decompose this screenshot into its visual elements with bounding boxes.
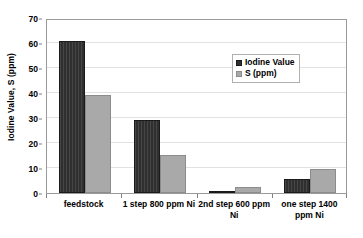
bar-group	[47, 20, 122, 193]
x-axis-category-labels: feedstock1 step 800 ppm Ni2nd step 600 p…	[46, 199, 347, 237]
y-axis-tick-mark	[39, 44, 42, 45]
bar[interactable]	[160, 155, 186, 193]
legend-swatch-icon	[236, 71, 242, 77]
bar[interactable]	[134, 120, 160, 193]
chart-legend: Iodine ValueS (ppm)	[232, 54, 300, 83]
bar[interactable]	[310, 169, 336, 193]
y-axis-tick-label: 40	[29, 90, 38, 99]
x-axis-category-label: 1 step 800 ppm Ni	[121, 199, 196, 210]
y-axis-tick-mark	[39, 194, 42, 195]
bar-group	[273, 20, 348, 193]
y-axis-tick-mark	[39, 144, 42, 145]
y-axis-tick-mark	[39, 94, 42, 95]
bar-chart: Iodine Value, S (ppm) 010203040506070 fe…	[0, 0, 363, 238]
y-axis-tick-label: 20	[29, 140, 38, 149]
bar[interactable]	[85, 95, 111, 193]
legend-entry[interactable]: Iodine Value	[236, 57, 295, 68]
bar[interactable]	[235, 187, 261, 194]
y-axis-tick-labels: 010203040506070	[18, 19, 42, 194]
y-axis-title-text: Iodine Value, S (ppm)	[6, 53, 16, 141]
y-axis-tick-label: 10	[29, 165, 38, 174]
y-axis-tick-label: 50	[29, 65, 38, 74]
bar[interactable]	[209, 191, 235, 194]
x-axis-tick-mark	[197, 194, 198, 198]
y-axis-tick-mark	[39, 69, 42, 70]
y-axis-tick-label: 0	[33, 190, 38, 199]
bar[interactable]	[284, 179, 310, 193]
y-axis-tick-mark	[39, 169, 42, 170]
y-axis-tick-label: 60	[29, 40, 38, 49]
x-axis-category-label: one step 1400 ppm Ni	[272, 199, 347, 221]
y-axis-tick-mark	[39, 119, 42, 120]
x-axis-tick-mark	[46, 194, 47, 198]
x-axis-tick-mark	[272, 194, 273, 198]
bar[interactable]	[59, 41, 85, 194]
legend-label: S (ppm)	[245, 69, 277, 78]
x-axis-tick-mark	[121, 194, 122, 198]
legend-entry[interactable]: S (ppm)	[236, 68, 295, 79]
y-axis-tick-label: 70	[29, 15, 38, 24]
legend-label: Iodine Value	[245, 58, 295, 67]
y-axis-tick-label: 30	[29, 115, 38, 124]
x-axis-category-label: 2nd step 600 ppm Ni	[197, 199, 272, 221]
bars-layer	[47, 20, 346, 193]
x-axis-category-label: feedstock	[46, 199, 121, 210]
bar-group	[122, 20, 197, 193]
legend-swatch-icon	[236, 60, 242, 66]
y-axis-tick-mark	[39, 19, 42, 20]
plot-area	[46, 19, 347, 194]
bar-group	[198, 20, 273, 193]
x-axis-tick-mark	[346, 194, 347, 198]
